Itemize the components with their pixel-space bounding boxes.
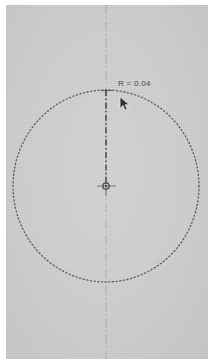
drawing-viewport: R = 0.04 xyxy=(0,0,212,362)
radius-dimension-label: R = 0.04 xyxy=(118,79,151,88)
drawing-layer xyxy=(6,5,208,359)
mouse-pointer-arrow-icon xyxy=(119,96,132,111)
cad-canvas[interactable]: R = 0.04 xyxy=(6,5,208,359)
